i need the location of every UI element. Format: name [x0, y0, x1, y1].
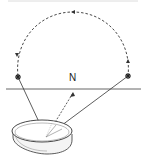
- star-compass-diagram: N: [0, 0, 146, 159]
- north-label: N: [69, 72, 76, 83]
- compass-dish: [12, 120, 72, 154]
- arc-arrow-top-icon: [71, 10, 75, 14]
- star-path-arc: [18, 12, 129, 76]
- north-arrow-icon: [70, 92, 75, 97]
- arc-arrow-right-icon: [126, 59, 130, 63]
